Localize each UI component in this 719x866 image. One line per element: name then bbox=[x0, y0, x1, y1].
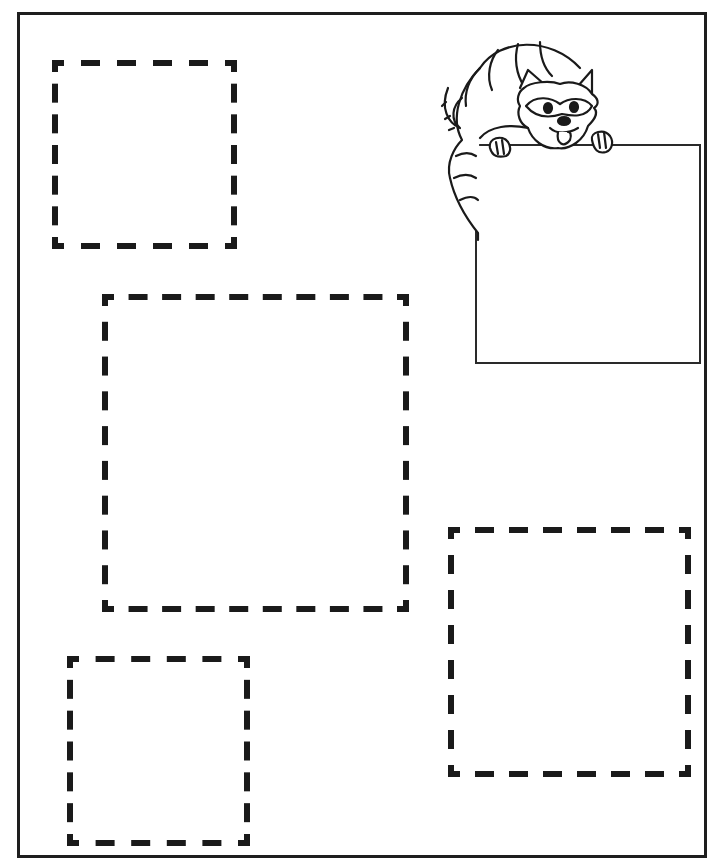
raccoon-icon bbox=[440, 28, 630, 258]
tracing-square bbox=[448, 527, 691, 777]
tracing-square bbox=[67, 656, 250, 846]
tracing-square bbox=[102, 294, 409, 612]
tracing-square bbox=[52, 60, 237, 249]
